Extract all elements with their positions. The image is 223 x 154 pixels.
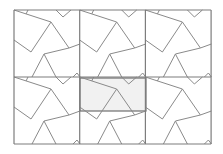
tessellation-diagram: [0, 0, 223, 154]
